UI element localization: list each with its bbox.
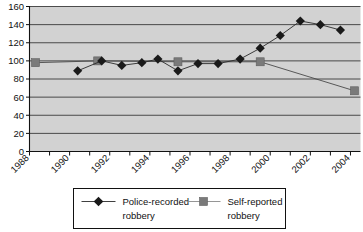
legend-label-self-line1: Self-reported <box>228 196 283 207</box>
self-reported-data-point <box>174 58 182 66</box>
y-axis-tick-label: 120 <box>8 37 24 48</box>
square-marker-icon <box>200 198 208 206</box>
y-axis-tick-label: 100 <box>8 55 24 66</box>
self-reported-data-point <box>256 58 264 66</box>
chart-svg: 020406080100120140160 198819901992199419… <box>0 0 363 232</box>
y-axis-tick-label: 140 <box>8 19 24 30</box>
y-axis-tick-label: 60 <box>13 92 24 103</box>
legend-label-self-line2: robbery <box>228 210 260 221</box>
self-reported-data-point <box>32 59 40 67</box>
legend-box <box>74 189 286 229</box>
chart-legend: Police-recordedrobberySelf-reportedrobbe… <box>74 189 286 229</box>
y-axis-tick-label: 80 <box>13 73 24 84</box>
legend-label-police-line1: Police-recorded <box>123 196 190 207</box>
y-axis-tick-label: 160 <box>8 1 24 12</box>
y-axis-tick-label: 20 <box>13 128 24 139</box>
y-axis-tick-label: 40 <box>13 110 24 121</box>
robbery-trend-chart: 020406080100120140160 198819901992199419… <box>0 0 363 232</box>
self-reported-data-point <box>350 87 358 95</box>
legend-label-police-line2: robbery <box>123 210 155 221</box>
